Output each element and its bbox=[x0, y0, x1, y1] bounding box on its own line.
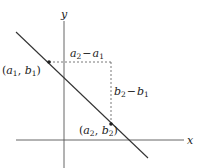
point-1-label: (a1, b1) bbox=[2, 64, 41, 78]
x-axis-label: x bbox=[187, 134, 194, 147]
point-2-label: (a2, b2) bbox=[79, 124, 118, 138]
point-1 bbox=[47, 60, 51, 64]
y-axis-label: y bbox=[60, 8, 68, 21]
slope-diagram: x y a2−a1 b2−b1 (a1, b1) (a2, b2) bbox=[0, 0, 203, 168]
rise-label: b2−b1 bbox=[114, 85, 149, 99]
point-2 bbox=[109, 122, 113, 126]
run-label: a2−a1 bbox=[70, 47, 104, 61]
